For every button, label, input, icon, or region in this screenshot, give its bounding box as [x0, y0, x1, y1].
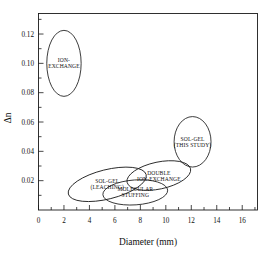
x-axis-tick-labels: 0246810121416 — [37, 217, 247, 225]
y-tick-label: 0.06 — [21, 119, 34, 127]
y-tick-label: 0.02 — [21, 177, 34, 185]
y-axis-ticks — [39, 19, 44, 195]
x-tick-label: 6 — [113, 217, 117, 225]
x-tick-label: 8 — [139, 217, 143, 225]
chart-plot-area: 0246810121416 0.020.040.060.080.100.12 I… — [0, 0, 271, 257]
x-tick-label: 16 — [239, 217, 247, 225]
y-axis-tick-labels: 0.020.040.060.080.100.12 — [21, 31, 34, 186]
group-label: STUFFING — [121, 192, 149, 198]
x-axis-title: Diameter (mm) — [119, 237, 177, 248]
y-tick-label: 0.04 — [21, 148, 34, 156]
x-axis-ticks — [39, 205, 255, 210]
x-tick-label: 0 — [37, 217, 41, 225]
data-group-ellipses — [47, 30, 211, 208]
x-tick-label: 2 — [62, 217, 66, 225]
x-tick-label: 12 — [188, 217, 196, 225]
y-tick-label: 0.12 — [21, 31, 34, 39]
group-label: EXCHANGE — [48, 63, 80, 69]
chart-figure: 0246810121416 0.020.040.060.080.100.12 I… — [0, 0, 271, 257]
y-axis-title: Δn — [3, 112, 13, 123]
y-tick-label: 0.10 — [21, 60, 34, 68]
group-label: ION-EXCHANGE — [137, 176, 181, 182]
x-tick-label: 14 — [213, 217, 221, 225]
group-label: (THIS STUDY) — [174, 142, 211, 149]
x-tick-label: 10 — [162, 217, 170, 225]
x-tick-label: 4 — [88, 217, 92, 225]
y-tick-label: 0.08 — [21, 89, 34, 97]
